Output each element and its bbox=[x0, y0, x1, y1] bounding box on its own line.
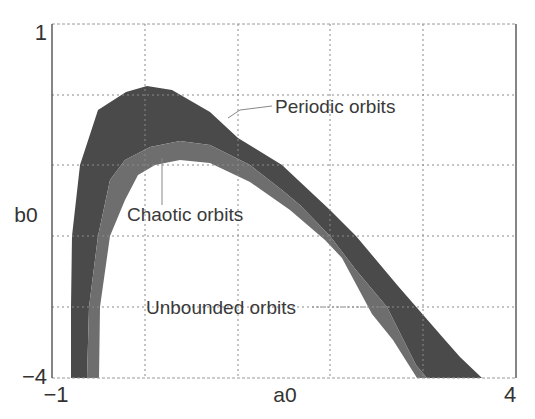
periodic-orbits-label: Periodic orbits bbox=[275, 96, 395, 117]
y-axis-label: b0 bbox=[14, 203, 37, 226]
y-tick-max: 1 bbox=[35, 20, 47, 45]
phase-diagram-chart: 1 −4 −1 4 a0 b0 Periodic orbits Chaotic … bbox=[0, 0, 535, 419]
chaotic-orbits-label: Chaotic orbits bbox=[127, 204, 243, 225]
x-tick-max: 4 bbox=[504, 382, 516, 407]
unbounded-orbits-label: Unbounded orbits bbox=[146, 297, 296, 318]
x-axis-label: a0 bbox=[273, 383, 296, 406]
x-tick-min: −1 bbox=[43, 382, 68, 407]
